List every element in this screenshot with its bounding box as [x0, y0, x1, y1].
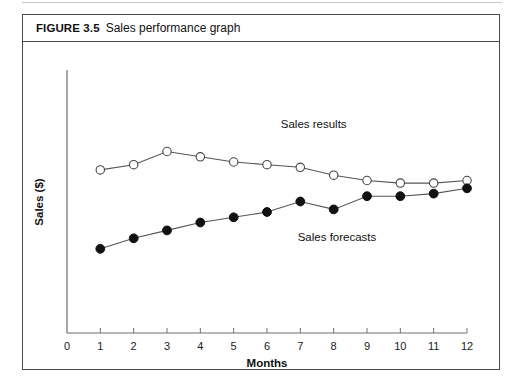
data-point-marker	[396, 179, 404, 187]
x-tick-label: 12	[461, 340, 473, 352]
x-tick-label: 5	[231, 340, 237, 352]
sales-performance-line-chart: 0123456789101112 Sales resultsSales fore…	[23, 42, 499, 369]
data-point-marker	[263, 161, 271, 169]
x-axis-ticks: 0123456789101112	[64, 328, 473, 352]
data-point-marker	[96, 166, 104, 174]
data-point-marker	[196, 153, 204, 161]
data-point-marker	[430, 179, 438, 187]
data-point-marker	[229, 213, 238, 222]
data-point-marker	[129, 234, 138, 243]
data-point-marker	[330, 171, 338, 179]
figure-container: FIGURE 3.5 Sales performance graph 01234…	[22, 14, 500, 370]
x-tick-label: 1	[97, 340, 103, 352]
page-rule-divider	[22, 2, 502, 3]
data-point-marker	[263, 208, 272, 217]
data-point-marker	[296, 163, 304, 171]
series-annotation-label: Sales results	[281, 118, 347, 130]
data-point-marker	[230, 158, 238, 166]
figure-caption: FIGURE 3.5 Sales performance graph	[23, 15, 499, 42]
chart-series	[96, 147, 472, 253]
chart-plot-area: 0123456789101112 Sales resultsSales fore…	[23, 42, 499, 369]
series-line-2	[100, 188, 467, 249]
x-tick-label: 3	[164, 340, 170, 352]
x-tick-label: 10	[394, 340, 406, 352]
data-point-marker	[196, 218, 205, 227]
chart-axes	[67, 70, 467, 333]
data-point-marker	[429, 189, 438, 198]
data-point-marker	[163, 147, 171, 155]
chart-annotations: Sales resultsSales forecasts	[281, 118, 377, 243]
x-tick-label: 6	[264, 340, 270, 352]
figure-title: Sales performance graph	[106, 21, 241, 35]
x-tick-label: 0	[64, 340, 70, 352]
x-tick-label: 2	[131, 340, 137, 352]
series-line-1	[100, 152, 467, 184]
data-point-marker	[163, 226, 172, 235]
x-axis-title: Months	[247, 357, 288, 369]
data-point-marker	[363, 176, 371, 184]
data-point-marker	[296, 197, 305, 206]
y-axis-title: Sales ($)	[33, 178, 45, 225]
data-point-marker	[463, 184, 472, 193]
x-tick-label: 7	[297, 340, 303, 352]
data-point-marker	[96, 244, 105, 253]
data-point-marker	[396, 192, 405, 201]
data-point-marker	[329, 205, 338, 214]
x-tick-label: 8	[331, 340, 337, 352]
x-tick-label: 11	[428, 340, 439, 352]
data-point-marker	[363, 192, 372, 201]
x-tick-label: 4	[197, 340, 203, 352]
series-annotation-label: Sales forecasts	[298, 231, 377, 243]
data-point-marker	[130, 161, 138, 169]
figure-number-label: FIGURE 3.5	[36, 22, 100, 34]
figure-page: FIGURE 3.5 Sales performance graph 01234…	[0, 0, 524, 380]
x-tick-label: 9	[364, 340, 370, 352]
